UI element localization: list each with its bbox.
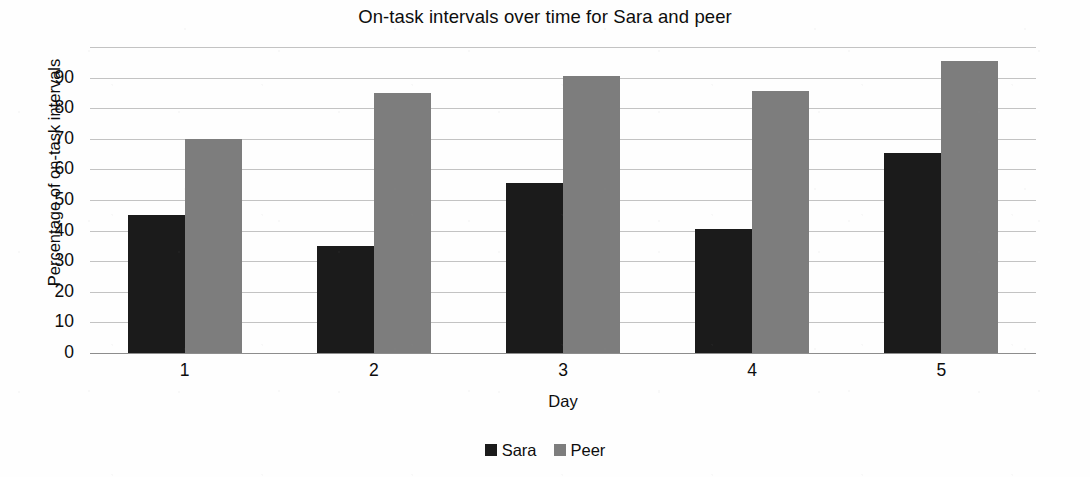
x-axis-tick-labels: 12345 (90, 362, 1036, 390)
chart-title: On-task intervals over time for Sara and… (0, 6, 1090, 28)
y-tick-label: 50 (55, 191, 74, 209)
bar-sara-day-2 (317, 246, 374, 353)
bar-sara-day-1 (128, 215, 185, 353)
y-tick-label: 90 (55, 69, 74, 87)
y-tick-label: 40 (55, 222, 74, 240)
y-tick-label: 0 (64, 344, 74, 362)
legend-label-sara: Sara (502, 442, 537, 459)
x-axis-title: Day (90, 392, 1036, 411)
chart-legend: SaraPeer (0, 442, 1090, 459)
x-tick-label-5: 5 (937, 362, 947, 380)
bar-peer-day-5 (941, 61, 998, 353)
bar-peer-day-2 (374, 93, 431, 353)
legend-item-sara: Sara (485, 442, 537, 459)
y-axis-tick-labels: 0102030405060708090 (0, 47, 84, 353)
legend-item-peer: Peer (554, 442, 606, 459)
y-tick-label: 70 (55, 130, 74, 148)
bar-sara-day-5 (884, 153, 941, 353)
bar-peer-day-4 (752, 91, 809, 353)
x-tick-label-2: 2 (369, 362, 379, 380)
legend-label-peer: Peer (571, 442, 606, 459)
bar-sara-day-3 (506, 183, 563, 353)
y-tick-label: 60 (55, 161, 74, 179)
x-tick-label-1: 1 (180, 362, 190, 380)
bar-sara-day-4 (695, 229, 752, 353)
y-tick-label: 30 (55, 252, 74, 270)
legend-swatch-peer-icon (554, 444, 566, 456)
legend-swatch-sara-icon (485, 444, 497, 456)
y-tick-label: 80 (55, 99, 74, 117)
bar-peer-day-3 (563, 76, 620, 353)
bar-chart: On-task intervals over time for Sara and… (0, 0, 1090, 477)
x-tick-label-4: 4 (747, 362, 757, 380)
plot-area (90, 47, 1036, 353)
bars-layer (90, 47, 1036, 353)
y-tick-label: 10 (55, 314, 74, 332)
gridline-0 (90, 353, 1036, 354)
x-tick-label-3: 3 (558, 362, 568, 380)
y-tick-label: 20 (55, 283, 74, 301)
bar-peer-day-1 (185, 139, 242, 353)
